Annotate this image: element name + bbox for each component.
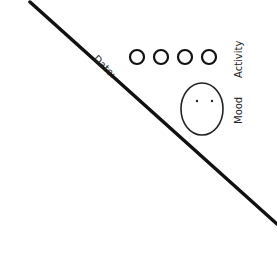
activity-circle-3[interactable] [178, 50, 192, 64]
sketch-canvas [0, 0, 277, 261]
mood-face-icon[interactable] [181, 83, 223, 135]
activity-circle-1[interactable] [130, 50, 144, 64]
activity-circle-4[interactable] [202, 50, 216, 64]
activity-circle-2[interactable] [154, 50, 168, 64]
activity-label: Activity [233, 41, 244, 78]
activity-circles [130, 50, 216, 64]
mood-label: Mood [233, 97, 244, 124]
